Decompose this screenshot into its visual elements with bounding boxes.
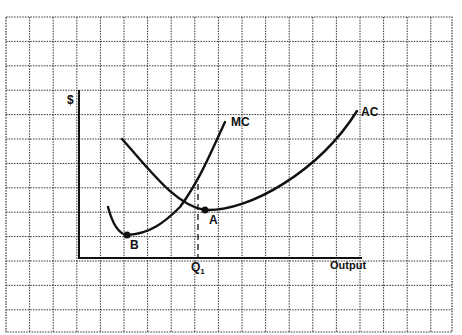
graph-paper-grid	[6, 17, 452, 332]
ac-label: AC	[361, 105, 379, 119]
grid-frame	[6, 17, 452, 332]
x-axis-label: Output	[330, 259, 366, 271]
q1-label: Q1	[191, 260, 205, 276]
point-a-marker	[202, 207, 209, 214]
mc-label: MC	[231, 115, 250, 129]
q1-label-subscript: 1	[200, 267, 205, 276]
y-axis-label: $	[67, 93, 74, 107]
point-a-label: A	[209, 213, 218, 227]
point-b-label: B	[130, 238, 139, 252]
q1-label-main: Q	[191, 260, 200, 274]
cost-curve-diagram: $ Output MC AC A B Q1	[0, 0, 462, 335]
